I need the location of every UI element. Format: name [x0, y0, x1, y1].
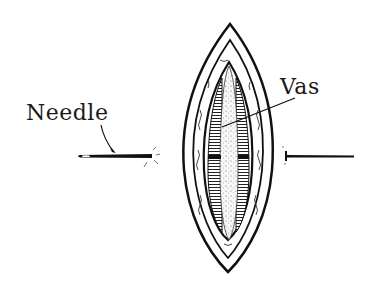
- needle-eye: [82, 155, 90, 157]
- needle-label: Needle: [26, 100, 108, 125]
- needle-right: [282, 146, 354, 164]
- needle-left: [78, 147, 160, 167]
- sheath-band-left: [208, 155, 221, 159]
- vas-label: Vas: [279, 74, 320, 99]
- needle-leader-line: [101, 125, 114, 152]
- vasectomy-diagram: Needle Vas: [0, 0, 376, 294]
- sheath-band-right: [238, 155, 249, 159]
